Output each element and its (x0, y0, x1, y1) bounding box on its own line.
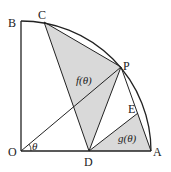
diagram-canvas: B C P E O D A θ f(θ) g(θ) (0, 0, 171, 172)
label-e: E (128, 102, 135, 116)
label-c: C (38, 8, 46, 22)
label-p: P (123, 59, 130, 73)
label-o: O (8, 145, 17, 159)
quarter-circle-diagram: B C P E O D A θ f(θ) g(θ) (0, 0, 171, 172)
label-b: B (8, 16, 16, 30)
label-f-theta: f(θ) (76, 74, 92, 87)
label-g-theta: g(θ) (118, 132, 137, 145)
label-d: D (84, 155, 93, 169)
angle-theta-arc (29, 144, 31, 151)
label-a: A (153, 145, 162, 159)
label-theta: θ (32, 140, 38, 152)
